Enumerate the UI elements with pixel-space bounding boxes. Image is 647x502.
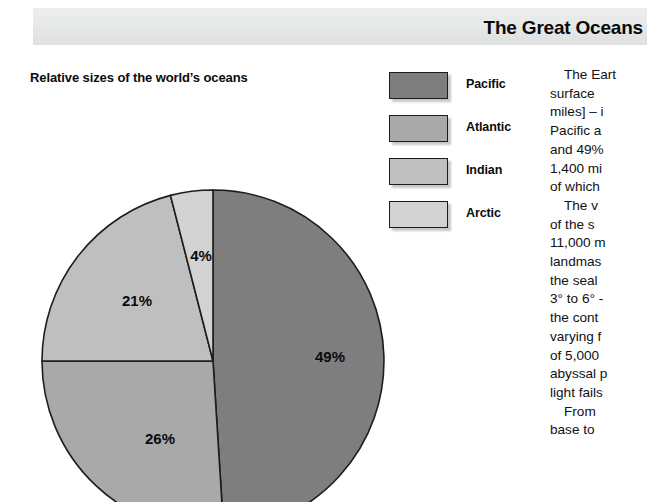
article-line: From [550,403,647,422]
article-line: surface [550,85,647,104]
article-line: the seal [550,272,647,291]
article-line: landmas [550,253,647,272]
pie-slice-label-pacific: 49% [315,348,345,365]
legend-item-atlantic[interactable]: Atlantic [389,115,539,158]
article-line: miles] – i [550,103,647,122]
legend-swatch-pacific [389,72,448,99]
legend-label-pacific: Pacific [466,77,506,91]
article-text-column: The Eartsurfacemiles] – iPacific aand 49… [550,66,647,502]
article-line: base to [550,421,647,440]
legend-swatch-indian [389,158,448,185]
pie-slice-label-atlantic: 26% [145,430,175,447]
figure-panel: Relative sizes of the world’s oceans 49%… [0,45,540,502]
pie-slice-label-indian: 21% [122,292,152,309]
article-line: 1,400 mi [550,160,647,179]
legend-label-atlantic: Atlantic [466,120,511,134]
legend-swatch-arctic [389,201,448,228]
article-line: the cont [550,309,647,328]
article-line: of 5,000 [550,347,647,366]
article-line: 11,000 m [550,234,647,253]
article-line: Pacific a [550,122,647,141]
legend-label-indian: Indian [466,163,502,177]
legend-item-pacific[interactable]: Pacific [389,72,539,115]
legend-item-arctic[interactable]: Arctic [389,201,539,244]
article-line: The v [550,197,647,216]
article-line: and 49% [550,141,647,160]
chart-legend: Pacific Atlantic Indian Arctic [389,72,539,244]
pie-slice-pacific[interactable] [213,190,384,502]
page-header-band: The Great Oceans [33,8,647,45]
legend-swatch-atlantic [389,115,448,142]
legend-label-arctic: Arctic [466,206,501,220]
article-line: varying f [550,328,647,347]
article-line: light fails [550,384,647,403]
pie-slice-atlantic[interactable] [42,361,224,502]
article-line: The Eart [550,66,647,85]
page-title: The Great Oceans [484,17,643,39]
legend-item-indian[interactable]: Indian [389,158,539,201]
pie-slice-label-arctic: 4% [190,247,212,264]
article-line: 3° to 6° - [550,290,647,309]
article-line: of which [550,178,647,197]
pie-slice-group [42,190,384,502]
article-line: abyssal p [550,365,647,384]
article-line: of the s [550,216,647,235]
